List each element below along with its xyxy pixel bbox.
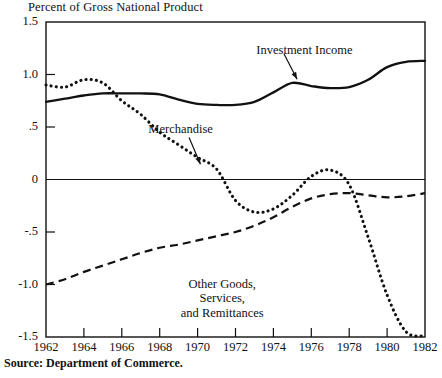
series-label-merchandise: Merchandise [148, 122, 213, 137]
series-path-dashed [46, 193, 425, 284]
x-axis-label-1966: 1966 [101, 340, 143, 355]
x-axis-label-1974: 1974 [252, 340, 294, 355]
x-axis-label-1980: 1980 [366, 340, 408, 355]
x-axis-label-1970: 1970 [177, 340, 219, 355]
x-axis-label-1962: 1962 [25, 340, 67, 355]
annotation-arrow-investment-income-head [292, 72, 298, 79]
x-axis-label-1964: 1964 [63, 340, 105, 355]
series-path-solid [46, 61, 425, 105]
x-axis-label-1976: 1976 [290, 340, 332, 355]
y-axis-label-10: -1.0 [2, 277, 38, 292]
y-axis-label-10: 1.0 [2, 67, 38, 82]
y-axis-label-5: .5 [2, 119, 38, 134]
source-note: Source: Department of Commerce. [4, 356, 183, 371]
series-label-other-goods-line1: Other Goods, [157, 277, 287, 292]
x-axis-label-1978: 1978 [328, 340, 370, 355]
x-axis-label-1968: 1968 [139, 340, 181, 355]
x-axis-label-1972: 1972 [215, 340, 257, 355]
series-label-other-goods: Other Goods, Services, and Remittances [157, 277, 287, 321]
series-label-other-goods-line2: Services, [157, 291, 287, 306]
y-axis-label-15: 1.5 [2, 14, 38, 29]
y-axis-label-5: -.5 [2, 224, 38, 239]
series-label-investment-income: Investment Income [256, 43, 352, 58]
annotation-arrow-merchandise-head [195, 157, 200, 164]
x-axis-label-1982: 1982 [404, 340, 442, 355]
series-label-other-goods-line3: and Remittances [157, 306, 287, 321]
y-axis-label-0: 0 [2, 172, 38, 187]
